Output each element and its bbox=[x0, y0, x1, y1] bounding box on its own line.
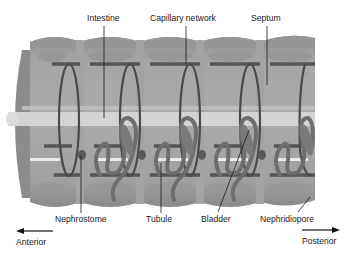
posterior-arrow bbox=[302, 227, 340, 233]
label-capillary-network: Capillary network bbox=[150, 13, 216, 23]
label-anterior: Anterior bbox=[16, 237, 46, 247]
label-posterior: Posterior bbox=[302, 236, 336, 246]
anterior-arrow bbox=[16, 228, 53, 234]
label-tubule: Tubule bbox=[146, 214, 172, 224]
label-bladder: Bladder bbox=[201, 214, 231, 224]
label-intestine: Intestine bbox=[87, 13, 120, 23]
worm-body bbox=[6, 36, 315, 207]
label-nephridiopore: Nephridiopore bbox=[260, 214, 314, 224]
label-septum: Septum bbox=[251, 13, 281, 23]
label-nephrostome: Nephrostome bbox=[55, 214, 107, 224]
intestine bbox=[8, 112, 315, 126]
